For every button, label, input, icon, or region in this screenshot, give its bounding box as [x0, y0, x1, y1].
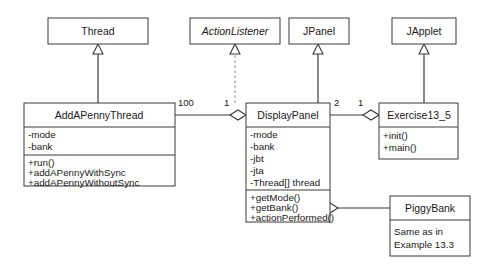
class-box-japplet[interactable]: JApplet — [392, 18, 456, 44]
class-name-thread: Thread — [81, 25, 114, 37]
class-name-display-panel: DisplayPanel — [257, 109, 318, 121]
class-box-thread[interactable]: Thread — [48, 18, 148, 44]
class-box-jpanel[interactable]: JPanel — [289, 18, 349, 44]
attribute-mode: -mode — [28, 129, 56, 140]
relation-thread-generalization — [93, 44, 103, 103]
class-name-exercise: Exercise13_5 — [387, 109, 451, 121]
class-name-add-a-penny-thread: AddAPennyThread — [55, 109, 144, 121]
class-name-jpanel: JPanel — [303, 25, 335, 37]
relation-actionlistener-realization — [230, 44, 240, 103]
relation-japplet-generalization — [419, 44, 429, 103]
piggy-bank-note-line-2: Example 13.3 — [394, 239, 454, 250]
attribute-bank: -bank — [28, 141, 53, 152]
class-name-japplet: JApplet — [406, 25, 441, 37]
attribute-jbt: -jbt — [250, 153, 264, 164]
method-init: +init() — [383, 130, 408, 141]
class-name-piggy-bank: PiggyBank — [405, 202, 456, 214]
attribute-mode: -mode — [250, 129, 278, 140]
relation-jpanel-generalization — [313, 44, 323, 103]
class-name-action-listener: ActionListener — [201, 25, 269, 37]
class-box-piggy-bank[interactable]: PiggyBank Same as in Example 13.3 — [390, 196, 470, 256]
attribute-thread-array: -Thread[] thread — [250, 177, 320, 188]
piggy-bank-note-line-1: Same as in — [394, 226, 443, 237]
method-action-performed: +actionPerformed() — [250, 212, 334, 223]
uml-class-diagram: Thread ActionListener JPanel JApplet Add… — [0, 0, 491, 277]
class-box-display-panel[interactable]: DisplayPanel -mode -bank -jbt -jta -Thre… — [246, 103, 334, 223]
multiplicity-panel-right: 2 — [334, 97, 339, 108]
multiplicity-thread-side: 100 — [178, 97, 194, 108]
attribute-bank: -bank — [250, 141, 275, 152]
class-box-action-listener[interactable]: ActionListener — [190, 18, 280, 44]
relation-panel-thread-aggregation — [175, 110, 246, 120]
multiplicity-panel-left: 1 — [224, 97, 229, 108]
relation-exercise-panel-aggregation — [330, 110, 379, 120]
method-add-a-penny-without-sync: +addAPennyWithoutSync — [28, 177, 139, 188]
attribute-jta: -jta — [250, 165, 264, 176]
multiplicity-exercise-side: 1 — [358, 97, 363, 108]
method-main: +main() — [383, 142, 416, 153]
class-box-exercise[interactable]: Exercise13_5 +init() +main() — [379, 103, 458, 159]
class-box-add-a-penny-thread[interactable]: AddAPennyThread -mode -bank +run() +addA… — [24, 103, 175, 188]
